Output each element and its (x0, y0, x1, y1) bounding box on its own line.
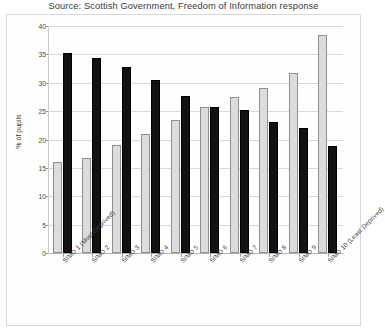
bar (181, 96, 190, 253)
y-tick-label: 0 (20, 250, 46, 257)
bar-group (200, 26, 220, 253)
y-tick-label: 30 (20, 79, 46, 86)
bar (200, 107, 209, 253)
plot-area (48, 26, 343, 253)
bar (240, 110, 249, 253)
y-tick-label: 15 (20, 164, 46, 171)
bar (289, 73, 298, 253)
bar (230, 97, 239, 253)
y-tick-label: 10 (20, 193, 46, 200)
y-tick-label: 35 (20, 51, 46, 58)
bar-group (53, 26, 73, 253)
bar (63, 53, 72, 253)
bar (151, 80, 160, 253)
bar-group (289, 26, 309, 253)
bar-group (112, 26, 132, 253)
y-tick-label: 25 (20, 108, 46, 115)
y-tick-label: 40 (20, 23, 46, 30)
bar-group (171, 26, 191, 253)
bar-group (230, 26, 250, 253)
bar (53, 162, 62, 253)
bar-group (318, 26, 338, 253)
bar (269, 122, 278, 253)
y-axis-tick-labels: 0510152025303540 (14, 0, 46, 331)
bar-group (82, 26, 102, 253)
bar (122, 67, 131, 253)
bar-group (141, 26, 161, 253)
bar (82, 158, 91, 253)
bar (210, 107, 219, 253)
bar (141, 134, 150, 253)
chart-source-title: Source: Scottish Government, Freedom of … (0, 1, 367, 11)
bar (318, 35, 327, 253)
y-tick-label: 5 (20, 221, 46, 228)
bar-group (259, 26, 279, 253)
x-axis-line (48, 253, 343, 254)
bar (259, 88, 268, 253)
bar (92, 58, 101, 253)
bar (299, 128, 308, 253)
bar (112, 145, 121, 253)
bar (171, 120, 180, 253)
bar (328, 146, 337, 253)
y-tick-label: 20 (20, 136, 46, 143)
